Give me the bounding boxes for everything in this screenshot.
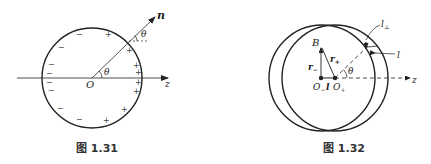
label-z-axis: z [164,79,170,89]
caption-fig-1-32: 图 1.32 [323,142,365,155]
svg-text:+: + [126,46,133,55]
positive-charges: + + + + + + + + [103,30,142,125]
svg-text:+: + [135,68,142,77]
l-perp-leader [366,25,380,40]
svg-text:−: − [48,60,55,69]
theta-arc [344,70,347,78]
label-b: B [311,37,319,48]
l-leader [375,53,395,54]
label-r-minus: r− [308,62,318,73]
theta-arc-surface [135,35,137,41]
svg-text:−: − [57,104,64,113]
svg-text:−: − [76,115,83,124]
label-o-minus: O− [313,82,325,93]
label-origin-o: O [86,79,94,90]
normal-vector-n [92,17,155,78]
svg-text:+: + [105,30,112,39]
svg-text:−: − [48,86,55,95]
label-n: n [157,9,165,22]
diagram-canvas: n θ θ O z − − − − − − − − + + + + + + + … [0,0,431,164]
center-o-minus [319,76,323,80]
svg-text:+: + [121,105,128,114]
negative-charges: − − − − − − − − [46,30,83,124]
svg-text:+: + [135,78,142,87]
label-r-plus: r+ [330,54,340,65]
theta-arc-center [99,71,102,78]
label-o-plus: O+ [333,82,345,93]
figure-1-31: n θ θ O z − − − − − − − − + + + + + + + … [17,9,170,155]
l-marker [367,46,378,47]
label-z-axis: z [411,75,417,85]
label-separation-l: l [326,82,330,92]
label-theta-surface: θ [141,29,147,39]
figure-1-32: B r− r+ O− l O+ θ z l⊥ l 图 1.32 [269,19,417,155]
label-theta-center: θ [104,67,110,77]
svg-text:+: + [103,116,110,125]
caption-fig-1-31: 图 1.31 [76,142,118,155]
svg-text:+: + [133,87,140,96]
label-theta: θ [348,66,354,76]
svg-text:−: − [58,43,65,52]
svg-text:−: − [46,69,53,78]
label-l: l [397,50,400,60]
center-o-plus [333,76,337,80]
label-l-perp: l⊥ [381,19,390,30]
svg-text:−: − [76,30,83,39]
